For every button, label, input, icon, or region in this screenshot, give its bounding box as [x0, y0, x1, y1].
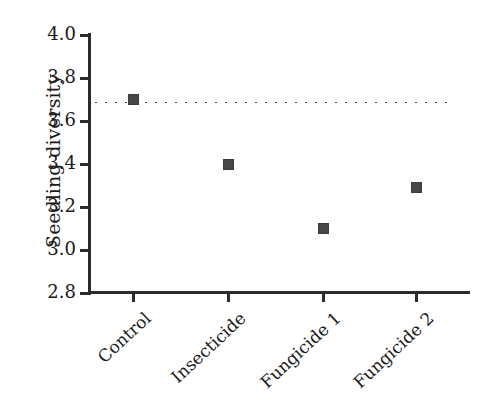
y-axis-tick	[80, 77, 89, 80]
y-axis-tick-label: 4.0	[32, 23, 76, 44]
data-point	[411, 182, 422, 193]
control-reference-line	[91, 101, 447, 104]
data-point	[223, 159, 234, 170]
y-axis-tick-label: 3.4	[32, 152, 76, 173]
y-axis-tick-label: 3.0	[32, 238, 76, 259]
x-axis-tick-label: Control	[0, 308, 155, 409]
y-axis-tick-label: 2.8	[32, 281, 76, 302]
x-axis-tick	[415, 293, 418, 302]
y-axis-tick-label: 3.8	[32, 66, 76, 87]
y-axis-tick-label: 3.2	[32, 195, 76, 216]
y-axis-tick	[80, 34, 89, 37]
x-axis-tick	[132, 293, 135, 302]
y-axis-tick	[80, 292, 89, 295]
y-axis-tick	[80, 206, 89, 209]
data-point	[128, 94, 139, 105]
x-axis-tick	[227, 293, 230, 302]
y-axis-tick-label: 3.6	[32, 109, 76, 130]
y-axis-tick	[80, 163, 89, 166]
chart-figure: Seedling diversity 2.83.03.23.43.63.84.0…	[0, 0, 486, 409]
y-axis-tick	[80, 120, 89, 123]
data-point	[318, 223, 329, 234]
x-axis-line	[88, 291, 470, 294]
x-axis-tick	[322, 293, 325, 302]
y-axis-tick	[80, 249, 89, 252]
